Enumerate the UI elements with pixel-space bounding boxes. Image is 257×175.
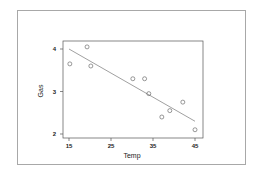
data-point <box>193 128 197 132</box>
x-tick-label: 15 <box>66 143 73 149</box>
data-point <box>68 62 72 66</box>
scatter-plot: 15253545 234 Temp Gas <box>0 0 257 175</box>
data-point <box>160 115 164 119</box>
y-tick-label: 3 <box>53 89 57 95</box>
plot-area <box>63 41 203 138</box>
y-tick-label: 4 <box>53 46 57 52</box>
x-tick-label: 25 <box>108 143 115 149</box>
data-points <box>68 45 197 132</box>
y-axis: 234 <box>53 46 63 137</box>
data-point <box>131 77 135 81</box>
x-tick-label: 45 <box>192 143 199 149</box>
x-axis: 15253545 <box>66 138 199 149</box>
x-axis-title: Temp <box>123 152 140 160</box>
data-point <box>85 45 89 49</box>
data-point <box>181 100 185 104</box>
y-tick-label: 2 <box>53 131 57 137</box>
regression-line <box>69 49 195 121</box>
data-point <box>143 77 147 81</box>
y-axis-title: Gas <box>37 84 44 97</box>
x-tick-label: 35 <box>150 143 157 149</box>
data-point <box>89 64 93 68</box>
data-point <box>168 109 172 113</box>
